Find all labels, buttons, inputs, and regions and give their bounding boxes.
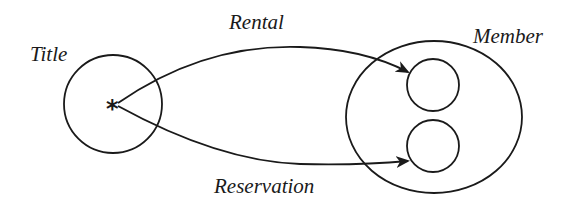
rental-edge: Rental [118,10,408,103]
member-set: Member [346,24,544,193]
asterisk-element-marker: * [106,95,119,123]
reservation-edge: Reservation [118,106,408,198]
member-label: Member [472,24,544,48]
member-element-2-circle [407,120,459,172]
member-ellipse [346,41,522,193]
rental-label: Rental [228,10,284,34]
reservation-label: Reservation [213,174,314,198]
title-set: Title * [30,42,162,153]
diagram-canvas: Title * Member Rental Reservation [0,0,584,206]
title-label: Title [30,42,67,66]
member-element-1-circle [407,59,459,111]
